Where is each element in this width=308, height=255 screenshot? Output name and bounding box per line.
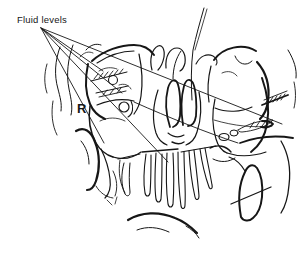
- zygoma-left: [76, 129, 125, 198]
- medical-illustration: Fluid levels R: [0, 0, 308, 255]
- teeth: [118, 146, 216, 209]
- fluid-level-hatching: [91, 69, 288, 132]
- nasal-cavity: [154, 51, 201, 145]
- jaw-right: [229, 141, 290, 221]
- right-side-marker: R: [77, 101, 86, 116]
- skull-line-drawing: [0, 0, 308, 255]
- frontal-sinus: [151, 46, 217, 71]
- fluid-levels-label: Fluid levels: [17, 14, 67, 25]
